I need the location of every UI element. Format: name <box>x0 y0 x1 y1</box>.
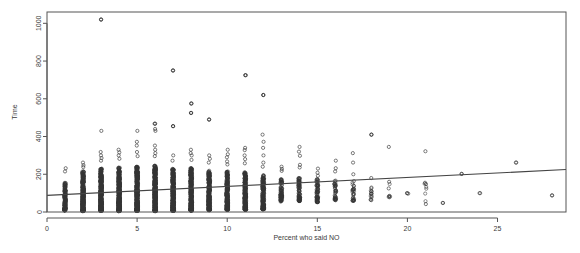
x-tick-label: 10 <box>223 225 231 232</box>
x-tick-label: 15 <box>313 225 321 232</box>
figure-background <box>0 0 580 253</box>
y-tick-label: 800 <box>36 55 43 67</box>
plot-canvas: 02004006008001000 0510152025 Percent who… <box>0 0 580 253</box>
x-tick-label: 5 <box>135 225 139 232</box>
y-tick-label: 200 <box>36 168 43 180</box>
x-tick-label: 0 <box>45 225 49 232</box>
x-tick-label: 20 <box>404 225 412 232</box>
scatter-plot-figure: 02004006008001000 0510152025 Percent who… <box>0 0 580 253</box>
y-tick-label: 600 <box>36 93 43 105</box>
y-axis-title: Time <box>11 104 18 119</box>
y-tick-label: 1000 <box>36 15 43 31</box>
y-tick-label: 400 <box>36 131 43 143</box>
x-tick-label: 25 <box>494 225 502 232</box>
y-tick-label: 0 <box>36 210 43 214</box>
x-axis-title: Percent who said NO <box>273 234 340 241</box>
